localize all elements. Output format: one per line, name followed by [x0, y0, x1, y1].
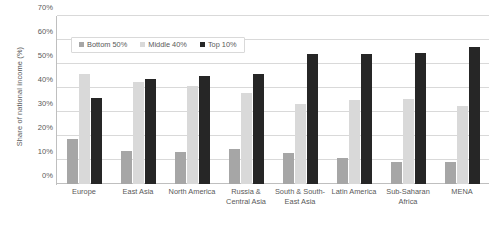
- y-axis-tick-label: 40%: [38, 75, 53, 84]
- bar: [457, 106, 468, 184]
- chart-legend: Bottom 50%Middle 40%Top 10%: [71, 37, 245, 53]
- x-axis-tick-label: Europe: [57, 187, 111, 206]
- bar: [361, 54, 372, 184]
- y-axis-tick-label: 60%: [38, 27, 53, 36]
- bar: [241, 93, 252, 184]
- bar-group: [435, 16, 489, 184]
- bar-group: [273, 16, 327, 184]
- bar: [403, 99, 414, 184]
- y-axis-tick-label: 20%: [38, 123, 53, 132]
- bar-group: [327, 16, 381, 184]
- bar-group: [381, 16, 435, 184]
- x-axis-tick-label: MENA: [435, 187, 489, 206]
- bar-chart: Share of national income (%) 70%60%50%40…: [0, 0, 497, 225]
- x-axis-tick-labels: EuropeEast AsiaNorth AmericaRussia & Cen…: [57, 187, 489, 206]
- x-axis-tick-label: Russia & Central Asia: [219, 187, 273, 206]
- y-axis-tick-label: 0%: [42, 171, 53, 180]
- legend-swatch-icon: [140, 42, 145, 47]
- bar: [121, 151, 132, 184]
- bar: [337, 158, 348, 184]
- legend-item: Top 10%: [200, 40, 237, 49]
- bar: [175, 152, 186, 184]
- bar: [445, 162, 456, 184]
- bar: [91, 98, 102, 184]
- legend-item: Bottom 50%: [79, 40, 127, 49]
- bar: [391, 162, 402, 184]
- bars: [273, 16, 327, 184]
- bar: [79, 74, 90, 184]
- bar: [229, 149, 240, 184]
- bar: [307, 54, 318, 184]
- y-axis-title: Share of national income (%): [15, 12, 24, 182]
- legend-swatch-icon: [200, 42, 205, 47]
- legend-item-label: Bottom 50%: [87, 40, 127, 49]
- x-axis-tick-label: South & South-East Asia: [273, 187, 327, 206]
- x-axis-tick-label: East Asia: [111, 187, 165, 206]
- bar: [133, 82, 144, 184]
- bar: [295, 104, 306, 184]
- x-axis-tick-label: North America: [165, 187, 219, 206]
- legend-item-label: Top 10%: [208, 40, 237, 49]
- y-axis-tick-label: 10%: [38, 147, 53, 156]
- y-axis-tick-label: 50%: [38, 51, 53, 60]
- bar: [283, 153, 294, 184]
- y-axis-tick-label: 30%: [38, 99, 53, 108]
- y-axis-tick-label: 70%: [38, 3, 53, 12]
- bars: [327, 16, 381, 184]
- x-axis-tick-label: Latin America: [327, 187, 381, 206]
- bars: [435, 16, 489, 184]
- x-axis-tick-label: Sub-Saharan Africa: [381, 187, 435, 206]
- legend-item: Middle 40%: [140, 40, 187, 49]
- bar: [199, 76, 210, 184]
- bar: [415, 53, 426, 184]
- legend-swatch-icon: [79, 42, 84, 47]
- bar: [145, 79, 156, 184]
- bar: [349, 100, 360, 184]
- bars: [381, 16, 435, 184]
- bar: [67, 139, 78, 184]
- bar: [187, 86, 198, 184]
- legend-item-label: Middle 40%: [148, 40, 187, 49]
- bar: [253, 74, 264, 184]
- bar: [469, 47, 480, 184]
